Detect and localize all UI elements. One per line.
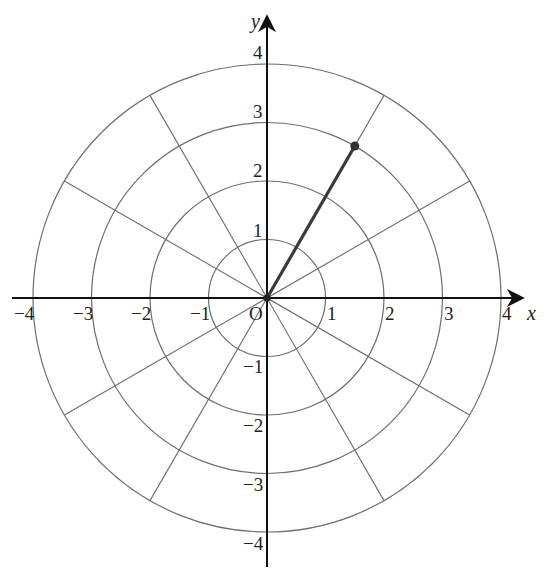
x-tick: −1	[190, 303, 210, 324]
y-tick: −4	[243, 533, 264, 554]
y-tick: 3	[253, 101, 263, 122]
polar-grid-svg: y x O −4 −3 −2 −1 1 2 3 4 4 3 2 1 −1 −2 …	[0, 0, 547, 581]
y-tick: 4	[253, 42, 263, 63]
polar-point	[350, 142, 359, 151]
y-tick: −3	[243, 474, 263, 495]
x-tick: −3	[73, 303, 93, 324]
x-tick: −4	[14, 303, 35, 324]
y-tick: −2	[243, 415, 263, 436]
x-tick: −2	[131, 303, 151, 324]
polar-grid-figure: y x O −4 −3 −2 −1 1 2 3 4 4 3 2 1 −1 −2 …	[0, 0, 547, 581]
origin-label: O	[249, 303, 263, 324]
position-vector	[267, 146, 355, 298]
x-tick: 3	[444, 303, 454, 324]
origin-dot	[263, 294, 270, 301]
y-tick: −1	[243, 356, 263, 377]
x-tick: 1	[327, 303, 337, 324]
x-tick: 2	[385, 303, 395, 324]
x-axis-label: x	[526, 302, 536, 324]
y-tick: 1	[253, 220, 263, 241]
y-axis-label: y	[249, 10, 260, 33]
x-tick-labels: −4 −3 −2 −1 1 2 3 4	[14, 303, 512, 324]
y-tick: 2	[253, 160, 263, 181]
x-tick: 4	[502, 303, 512, 324]
